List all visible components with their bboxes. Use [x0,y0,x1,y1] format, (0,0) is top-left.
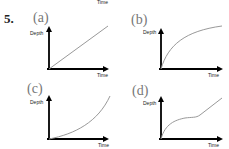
panel-d: (d) Depth Time [132,83,222,148]
panel-b-y-label: Depth [143,29,157,35]
panel-d-y-label: Depth [143,100,157,106]
panel-c-y-label: Depth [30,99,44,105]
panel-b: (b) Depth Time [131,12,222,78]
panel-a-label: (a) [33,10,49,26]
panel-a-x-label: Time [97,72,108,78]
panel-b-label: (b) [131,12,148,28]
panel-c: (c) Depth Time [27,81,110,148]
panel-c-label: (c) [27,81,43,97]
panel-c-x-label: Time [98,142,109,148]
diagram-canvas: Time 5. (a) Depth Time (b) Depth Time (c… [0,0,229,149]
panel-c-curve [49,96,110,139]
panel-a: (a) Depth Time [30,10,108,78]
panel-d-label: (d) [132,83,149,99]
panel-a-y-label: Depth [30,30,44,36]
panel-a-curve [49,26,108,69]
panel-b-x-label: Time [208,72,219,78]
panel-d-x-label: Time [208,142,219,148]
panel-b-curve [161,26,222,69]
top-cut-time-label: Time [97,0,108,5]
panel-d-curve [161,98,222,139]
question-number: 5. [4,11,14,26]
